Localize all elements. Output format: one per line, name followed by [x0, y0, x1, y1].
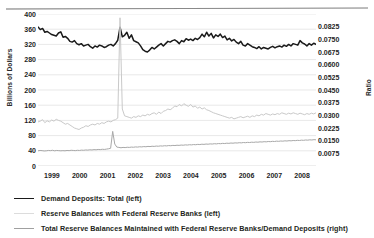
y-tick-left: 120	[10, 117, 36, 124]
y-tick-left: 240	[10, 71, 36, 78]
y-tick-left: 400	[10, 11, 36, 18]
y-tick-left: 280	[10, 56, 36, 63]
y-axis-left-ticks: 04080120160200240280320360400	[0, 12, 36, 190]
x-tick-label: 2007	[259, 172, 289, 179]
y-tick-right: 0.0150	[318, 137, 358, 144]
x-tick-label: 2006	[232, 172, 262, 179]
y-tick-right: 0.0600	[318, 61, 358, 68]
x-tick-label: 2008	[287, 172, 317, 179]
series-canvas	[38, 14, 316, 166]
y-tick-right: 0.0825	[318, 23, 358, 30]
series-line-0	[38, 27, 316, 52]
x-tick-label: 1999	[37, 172, 67, 179]
y-tick-right: 0.0375	[318, 99, 358, 106]
legend-item[interactable]: Demand Deposits: Total (left)	[14, 192, 142, 205]
chart-legend: Demand Deposits: Total (left)Reserve Bal…	[0, 192, 374, 238]
chart-plot-area: Billions of Dollars Ratio 04080120160200…	[0, 12, 374, 190]
y-tick-right: 0.0750	[318, 36, 358, 43]
y-tick-left: 0	[10, 163, 36, 170]
x-tick-label: 2002	[120, 172, 150, 179]
series-line-1	[38, 18, 316, 130]
y-tick-right: 0.0075	[318, 150, 358, 157]
x-axis-tick-labels: 1999200020012002200320042005200620072008	[38, 172, 316, 186]
top-horizontal-rule	[6, 7, 368, 9]
y-tick-right: 0.0675	[318, 49, 358, 56]
legend-line-swatch	[14, 228, 34, 229]
y-tick-left: 40	[10, 147, 36, 154]
legend-line-swatch	[14, 213, 34, 214]
y-tick-left: 80	[10, 132, 36, 139]
y-tick-left: 160	[10, 102, 36, 109]
chart-svg	[38, 14, 316, 166]
y-tick-right: 0.0300	[318, 112, 358, 119]
x-tick-label: 2005	[204, 172, 234, 179]
y-tick-left: 200	[10, 87, 36, 94]
legend-item[interactable]: Total Reserve Balances Maintained with F…	[14, 222, 348, 235]
x-tick-label: 2004	[176, 172, 206, 179]
series-line-2	[38, 131, 316, 151]
y-tick-right: 0.0525	[318, 74, 358, 81]
legend-label: Total Reserve Balances Maintained with F…	[41, 224, 348, 233]
x-tick-label: 2001	[93, 172, 123, 179]
y-axis-right-ticks: 0.00750.01500.02250.03000.03750.04500.05…	[318, 12, 362, 190]
y-tick-right: 0.0225	[318, 125, 358, 132]
figure-container: Billions of Dollars Ratio 04080120160200…	[0, 0, 374, 238]
y-tick-left: 360	[10, 26, 36, 33]
legend-label: Reserve Balances with Federal Reserve Ba…	[41, 209, 220, 218]
legend-line-swatch	[14, 198, 34, 199]
y-tick-right: 0.0450	[318, 87, 358, 94]
x-tick-label: 2003	[148, 172, 178, 179]
legend-item[interactable]: Reserve Balances with Federal Reserve Ba…	[14, 207, 220, 220]
x-tick-label: 2000	[65, 172, 95, 179]
y-tick-left: 320	[10, 41, 36, 48]
legend-label: Demand Deposits: Total (left)	[41, 194, 142, 203]
y-axis-right-title: Ratio	[365, 40, 372, 136]
